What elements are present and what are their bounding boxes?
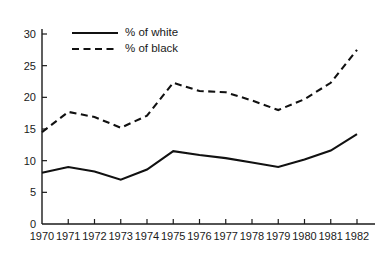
axes-group xyxy=(42,29,375,224)
x-tick-label: 1974 xyxy=(135,230,159,242)
chart-legend: % of white% of black xyxy=(72,26,178,54)
x-tick-label: 1970 xyxy=(30,230,54,242)
y-tick-label: 25 xyxy=(24,60,36,72)
line-chart: 051015202530 197019711972197319741975197… xyxy=(0,0,391,258)
legend-label-2: % of black xyxy=(125,42,178,54)
x-tick-label: 1976 xyxy=(187,230,211,242)
legend-label-1: % of white xyxy=(125,26,178,38)
x-tick-label: 1980 xyxy=(292,230,316,242)
y-axis-ticks: 051015202530 xyxy=(24,28,47,230)
x-tick-label: 1972 xyxy=(82,230,106,242)
data-series-group xyxy=(42,50,357,180)
series-line-1 xyxy=(42,134,357,180)
x-tick-label: 1981 xyxy=(319,230,343,242)
x-tick-label: 1971 xyxy=(56,230,80,242)
x-tick-label: 1979 xyxy=(266,230,290,242)
y-tick-label: 15 xyxy=(24,123,36,135)
x-axis-ticks: 1970197119721973197419751976197719781979… xyxy=(30,219,369,242)
y-tick-label: 30 xyxy=(24,28,36,40)
x-tick-label: 1975 xyxy=(161,230,185,242)
x-tick-label: 1982 xyxy=(345,230,369,242)
y-tick-label: 10 xyxy=(24,155,36,167)
x-tick-label: 1978 xyxy=(240,230,264,242)
y-tick-label: 20 xyxy=(24,91,36,103)
x-tick-label: 1977 xyxy=(214,230,238,242)
chart-canvas: 051015202530 197019711972197319741975197… xyxy=(0,0,391,258)
y-tick-label: 5 xyxy=(30,186,36,198)
series-line-2 xyxy=(42,50,357,132)
y-tick-label: 0 xyxy=(30,218,36,230)
x-tick-label: 1973 xyxy=(109,230,133,242)
